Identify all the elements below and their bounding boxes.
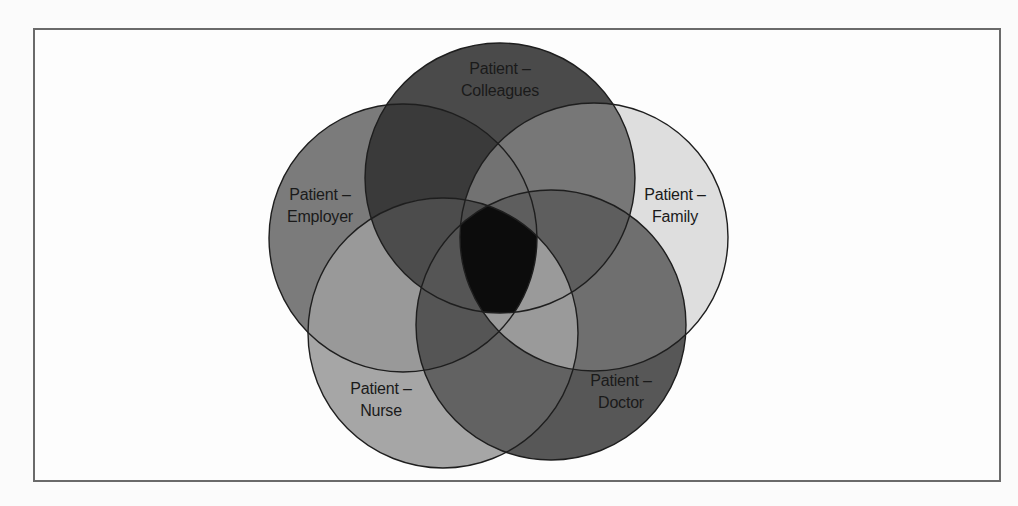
label-employer: Patient – Employer — [270, 184, 370, 228]
label-doctor: Patient – Doctor — [571, 370, 671, 414]
label-employer-line1: Patient – — [270, 184, 370, 206]
label-colleagues-line2: Colleagues — [440, 80, 560, 102]
label-colleagues: Patient – Colleagues — [440, 58, 560, 102]
label-doctor-line2: Doctor — [571, 392, 671, 414]
label-nurse-line2: Nurse — [331, 400, 431, 422]
label-employer-line2: Employer — [270, 206, 370, 228]
label-nurse: Patient – Nurse — [331, 378, 431, 422]
label-family: Patient – Family — [625, 184, 725, 228]
label-family-line2: Family — [625, 206, 725, 228]
label-doctor-line1: Patient – — [571, 370, 671, 392]
label-colleagues-line1: Patient – — [440, 58, 560, 80]
label-family-line1: Patient – — [625, 184, 725, 206]
label-nurse-line1: Patient – — [331, 378, 431, 400]
